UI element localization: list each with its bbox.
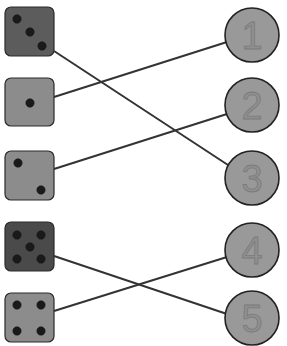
- die-face: [5, 293, 54, 342]
- pip: [13, 301, 21, 309]
- pip: [26, 99, 34, 107]
- die-two[interactable]: [5, 151, 54, 200]
- number-label: 2: [241, 85, 262, 127]
- dice-matching-diagram: 1 2 3 4 5: [0, 0, 287, 346]
- pip: [14, 159, 22, 167]
- number-circle-1[interactable]: 1: [225, 8, 279, 62]
- die-three[interactable]: [5, 7, 54, 56]
- pip: [37, 301, 45, 309]
- die-four[interactable]: [5, 293, 54, 342]
- connection-die3-to-3: [54, 51, 228, 165]
- connections: [54, 42, 228, 314]
- pip: [13, 231, 21, 239]
- number-label: 4: [241, 230, 262, 272]
- pip: [13, 255, 21, 263]
- pip: [13, 15, 21, 23]
- pip: [37, 327, 45, 335]
- number-label: 1: [241, 15, 262, 57]
- pip: [38, 42, 46, 50]
- number-label: 3: [241, 158, 262, 200]
- number-circle-3[interactable]: 3: [225, 151, 279, 205]
- pip: [37, 231, 45, 239]
- number-circle-4[interactable]: 4: [225, 223, 279, 277]
- die-face: [5, 151, 54, 200]
- connection-die1-to-1: [54, 42, 227, 97]
- pip: [37, 255, 45, 263]
- die-five[interactable]: [5, 222, 54, 271]
- pip: [37, 186, 45, 194]
- number-circle-5[interactable]: 5: [225, 291, 279, 345]
- die-one[interactable]: [5, 78, 54, 126]
- number-label: 5: [241, 298, 262, 340]
- pip: [13, 327, 21, 335]
- pip: [26, 28, 34, 36]
- connection-die2-to-2: [54, 114, 227, 169]
- pip: [26, 243, 34, 251]
- number-circle-2[interactable]: 2: [225, 78, 279, 132]
